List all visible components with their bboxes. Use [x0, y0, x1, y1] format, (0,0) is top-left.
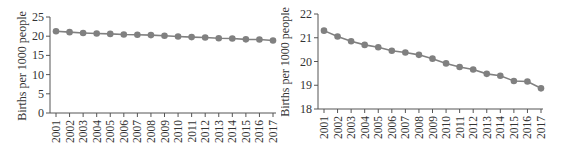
right-x-tick-label: 2012	[467, 116, 479, 139]
right-x-tick-label: 2003	[345, 116, 357, 139]
right-line-chart: Births per 1000 people 18192021222001200…	[281, 0, 562, 152]
right-data-point	[334, 33, 341, 40]
left-x-tick-label: 2011	[186, 120, 198, 143]
left-x-tick-label: 2013	[213, 120, 225, 143]
left-x-tick-label: 2003	[77, 120, 89, 143]
right-y-tick-label: 21	[300, 31, 312, 45]
left-x-tick-label: 2002	[64, 120, 76, 143]
right-x-tick-label: 2015	[508, 116, 520, 139]
right-data-point	[375, 44, 382, 51]
right-x-tick-label: 2007	[399, 116, 411, 139]
right-data-point	[456, 64, 463, 71]
left-data-point	[93, 30, 100, 37]
left-y-tick-label: 0	[38, 106, 44, 120]
left-data-point	[215, 35, 222, 42]
right-data-point	[511, 78, 518, 85]
left-data-point	[53, 28, 60, 35]
left-data-point	[148, 32, 155, 39]
right-x-tick-label: 2010	[440, 116, 452, 139]
right-x-tick-label: 2013	[481, 116, 493, 139]
left-data-point	[229, 35, 236, 42]
right-x-tick-label: 2002	[332, 116, 344, 139]
left-y-tick-label: 20	[32, 29, 44, 43]
left-data-point	[202, 34, 209, 41]
right-data-point	[429, 55, 436, 62]
right-y-tick-label: 19	[300, 78, 312, 92]
right-data-point	[497, 72, 504, 79]
left-x-tick-label: 2012	[199, 120, 211, 143]
left-x-tick-label: 2016	[253, 120, 265, 143]
left-y-tick-label: 25	[32, 10, 44, 24]
right-y-tick-label: 20	[300, 55, 312, 69]
right-y-tick-label: 18	[300, 102, 312, 116]
right-x-tick-label: 2006	[386, 116, 398, 139]
left-data-point	[66, 29, 73, 36]
right-data-point	[416, 52, 423, 59]
left-data-point	[107, 31, 114, 38]
left-data-point	[80, 30, 87, 37]
left-x-tick-label: 2005	[104, 120, 116, 143]
left-x-tick-label: 2004	[91, 120, 103, 143]
left-data-point	[161, 32, 168, 39]
left-x-tick-label: 2009	[159, 120, 171, 143]
left-x-tick-label: 2006	[118, 120, 130, 143]
right-data-point	[402, 49, 409, 56]
right-x-tick-label: 2014	[494, 116, 506, 139]
left-x-tick-label: 2015	[240, 120, 252, 143]
right-data-point	[470, 66, 477, 73]
left-data-point	[188, 34, 195, 41]
right-x-tick-label: 2017	[535, 116, 547, 139]
left-data-point	[134, 31, 141, 38]
left-x-tick-label: 2017	[267, 120, 279, 143]
left-x-tick-label: 2014	[226, 120, 238, 143]
left-y-axis-label: Births per 1000 people	[15, 11, 29, 121]
right-data-point	[389, 48, 396, 55]
right-data-point	[361, 42, 368, 49]
left-x-tick-label: 2008	[145, 120, 157, 143]
left-line-chart: Births per 1000 people 05101520252001200…	[0, 0, 281, 152]
right-chart-canvas: Births per 1000 people 18192021222001200…	[281, 0, 562, 152]
right-data-point	[443, 60, 450, 67]
right-x-tick-label: 2004	[359, 116, 371, 139]
left-data-point	[121, 31, 128, 38]
right-data-point	[348, 38, 355, 45]
left-x-tick-label: 2001	[50, 120, 62, 143]
left-y-tick-label: 15	[32, 48, 44, 62]
right-x-tick-label: 2016	[521, 116, 533, 139]
left-data-point	[256, 36, 263, 43]
left-y-tick-label: 10	[32, 68, 44, 82]
right-x-tick-label: 2009	[427, 116, 439, 139]
right-x-tick-label: 2005	[372, 116, 384, 139]
right-data-point	[524, 78, 531, 85]
right-y-axis-label: Births per 1000 people	[281, 7, 292, 117]
right-data-point	[321, 27, 328, 34]
right-x-tick-label: 2008	[413, 116, 425, 139]
left-y-tick-label: 5	[38, 87, 44, 101]
left-x-tick-label: 2007	[131, 120, 143, 143]
right-x-tick-label: 2011	[454, 116, 466, 139]
right-data-point	[483, 71, 490, 78]
left-x-tick-label: 2010	[172, 120, 184, 143]
left-data-point	[243, 36, 250, 43]
left-chart-canvas: Births per 1000 people 05101520252001200…	[0, 0, 281, 152]
left-data-point	[270, 37, 277, 44]
right-y-tick-label: 22	[300, 7, 312, 21]
right-x-tick-label: 2001	[318, 116, 330, 139]
left-data-point	[175, 33, 182, 40]
right-data-point	[538, 85, 545, 92]
